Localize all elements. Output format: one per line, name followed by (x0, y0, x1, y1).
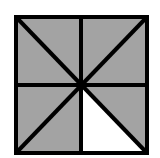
grid-lines (16, 17, 147, 153)
fraction-square-diagram (0, 0, 160, 158)
